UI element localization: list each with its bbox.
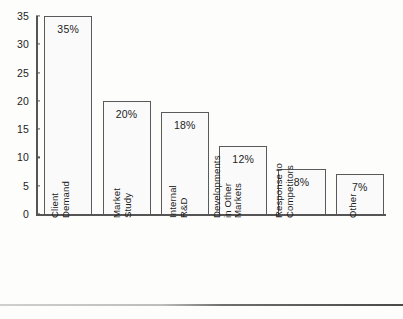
y-axis-tick-mark: [36, 72, 40, 73]
x-axis-category-label-line: Demand: [60, 181, 71, 218]
y-axis-tick-label: 0: [5, 209, 29, 220]
bar: 7%: [336, 174, 384, 214]
bar-value-label: 35%: [45, 24, 91, 35]
bar-value-label: 18%: [162, 120, 208, 131]
y-axis-tick-label: 25: [5, 67, 29, 78]
x-axis-category-label-text: Response toCompetitors: [274, 163, 295, 218]
bar-value-label: 20%: [104, 109, 150, 120]
y-axis-tick-mark: [36, 185, 40, 186]
x-axis-category-label-text: InternalR&D: [168, 185, 189, 218]
x-axis-category-label: Response toCompetitors: [291, 218, 312, 232]
y-axis-tick-label: 30: [5, 39, 29, 50]
x-axis-category-label-line: Market: [112, 188, 123, 218]
bar-chart-figure: 05101520253035 35%20%18%12%8%7% ClientDe…: [0, 0, 403, 319]
scan-bottom-edge: [0, 304, 403, 306]
y-axis-tick-label: 35: [5, 11, 29, 22]
x-axis-category-label-line: Client: [50, 181, 61, 218]
x-axis-category-label-line: Markets: [233, 155, 244, 218]
x-axis-category-label-line: R&D: [179, 185, 190, 218]
x-axis-category-label: MarketStudy: [116, 218, 137, 232]
y-axis-tick-mark: [36, 15, 40, 16]
y-axis-tick-label: 20: [5, 96, 29, 107]
x-axis-category-label: InternalR&D: [174, 218, 195, 232]
x-axis-category-label-line: Developments: [212, 155, 223, 218]
x-axis-category-label-text: MarketStudy: [112, 188, 133, 218]
y-axis-tick-label: 10: [5, 152, 29, 163]
x-axis-category-label-text: ClientDemand: [50, 181, 71, 218]
x-axis-category-label-text: Other: [348, 194, 359, 219]
y-axis-tick-mark: [36, 44, 40, 45]
bar-value-label: 7%: [337, 182, 383, 193]
x-axis-category-label-line: Competitors: [285, 163, 296, 218]
y-axis-tick-label: 15: [5, 124, 29, 135]
y-axis-tick-mark: [36, 157, 40, 158]
y-axis-tick-mark: [36, 213, 40, 214]
x-axis-category-label-text: Developmentsin OtherMarkets: [212, 155, 244, 218]
y-axis-tick-label: 5: [5, 180, 29, 191]
x-axis-category-label-line: Study: [122, 188, 133, 218]
x-axis-category-label: Other: [355, 218, 366, 232]
y-axis-tick-mark: [36, 100, 40, 101]
x-axis-category-label-line: Other: [348, 194, 359, 219]
x-axis-category-label-line: Response to: [274, 163, 285, 218]
x-axis-category-label: ClientDemand: [58, 218, 79, 232]
y-axis-tick-mark: [36, 129, 40, 130]
x-axis-category-label: Developmentsin OtherMarkets: [227, 218, 259, 232]
